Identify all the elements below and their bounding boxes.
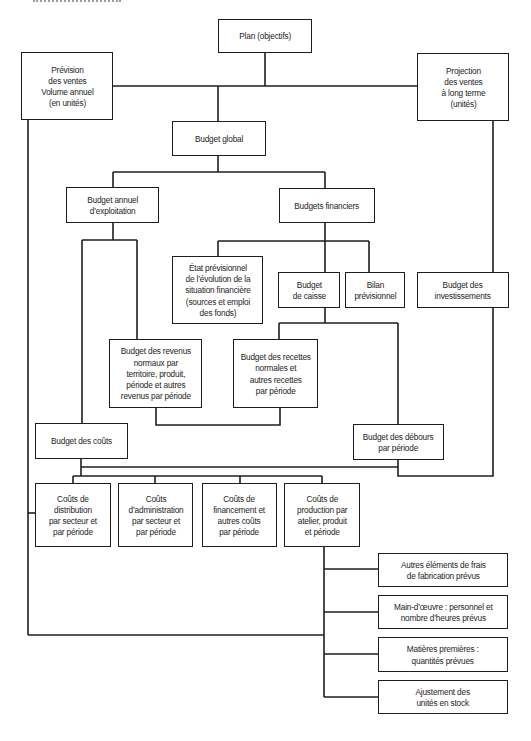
node-couts-financement-label: Coûts de financement et autres coûts par… bbox=[214, 493, 266, 538]
node-couts-financement: Coûts de financement et autres coûts par… bbox=[202, 483, 277, 547]
node-budget-recettes-label: Budget des recettes normales et autres r… bbox=[240, 351, 310, 396]
node-plan-label: Plan (objectifs) bbox=[239, 30, 291, 41]
node-budget-recettes: Budget des recettes normales et autres r… bbox=[233, 339, 318, 408]
node-etat-previsionnel-label: État prévisionnel de l’évolution de la s… bbox=[185, 262, 250, 318]
node-couts-distribution: Coûts de distribution par secteur et par… bbox=[35, 483, 111, 547]
node-ajustement-stock: Ajustement des unités en stock bbox=[378, 680, 508, 714]
node-couts-production-label: Coûts de production par atelier, produit… bbox=[297, 493, 347, 538]
node-autres-frais-label: Autres éléments de frais de fabrication … bbox=[401, 559, 486, 581]
node-main-oeuvre: Main-d’œuvre : personnel et nombre d’heu… bbox=[378, 595, 508, 629]
node-matieres-premieres: Matières premières : quantités prévues bbox=[378, 637, 508, 672]
node-prevision-ventes-label: Prévision des ventes Volume annuel (en u… bbox=[41, 64, 93, 109]
node-matieres-premieres-label: Matières premières : quantités prévues bbox=[407, 643, 479, 665]
node-budget-annuel-label: Budget annuel d’exploitation bbox=[87, 194, 138, 216]
node-budget-investissements-label: Budget des investissements bbox=[435, 279, 491, 301]
node-couts-distribution-label: Coûts de distribution par secteur et par… bbox=[49, 493, 97, 538]
node-budget-debours: Budget des débours par période bbox=[353, 424, 444, 460]
node-bilan-previsionnel-label: Bilan prévisionnel bbox=[354, 279, 396, 301]
connector-revenus-recettes bbox=[156, 408, 280, 425]
node-budget-caisse-label: Budget de caisse bbox=[292, 279, 325, 301]
node-projection-ventes-label: Projection des ventes à long terme (unit… bbox=[441, 65, 485, 110]
node-ajustement-stock-label: Ajustement des unités en stock bbox=[416, 686, 470, 708]
node-etat-previsionnel: État prévisionnel de l’évolution de la s… bbox=[172, 256, 263, 324]
node-budget-global: Budget global bbox=[172, 121, 266, 156]
node-budget-investissements: Budget des investissements bbox=[417, 272, 509, 308]
node-budget-couts: Budget des coûts bbox=[35, 423, 128, 459]
node-projection-ventes: Projection des ventes à long terme (unit… bbox=[417, 53, 509, 121]
node-budget-caisse: Budget de caisse bbox=[278, 272, 340, 308]
node-budget-debours-label: Budget des débours par période bbox=[363, 431, 434, 453]
node-budgets-financiers-label: Budgets financiers bbox=[295, 200, 360, 211]
node-budget-global-label: Budget global bbox=[195, 133, 243, 144]
node-prevision-ventes: Prévision des ventes Volume annuel (en u… bbox=[21, 52, 113, 120]
node-autres-frais: Autres éléments de frais de fabrication … bbox=[378, 553, 508, 587]
node-bilan-previsionnel: Bilan prévisionnel bbox=[345, 272, 405, 308]
node-couts-administration-label: Coûts d’administration par secteur et pa… bbox=[128, 493, 183, 538]
node-budget-annuel: Budget annuel d’exploitation bbox=[66, 187, 159, 223]
node-couts-production: Coûts de production par atelier, produit… bbox=[284, 483, 360, 547]
node-main-oeuvre-label: Main-d’œuvre : personnel et nombre d’heu… bbox=[394, 601, 493, 623]
node-plan: Plan (objectifs) bbox=[218, 19, 312, 53]
node-couts-administration: Coûts d’administration par secteur et pa… bbox=[118, 483, 193, 547]
node-budget-couts-label: Budget des coûts bbox=[51, 435, 112, 446]
node-budget-revenus-label: Budget des revenus normaux par territoir… bbox=[120, 345, 190, 401]
node-budget-revenus: Budget des revenus normaux par territoir… bbox=[109, 339, 202, 408]
node-budgets-financiers: Budgets financiers bbox=[279, 188, 375, 223]
